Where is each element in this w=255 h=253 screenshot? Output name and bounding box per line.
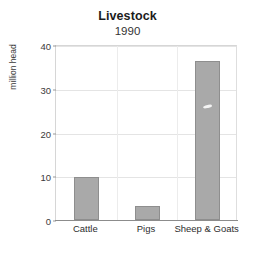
y-tick-label: 0 <box>46 216 51 227</box>
x-tick-label: Cattle <box>73 223 98 234</box>
y-tick-mark <box>53 46 56 47</box>
bar-sheep-goats <box>195 61 220 220</box>
bar-cattle <box>74 177 99 220</box>
x-tick-label: Sheep & Goats <box>174 223 238 234</box>
x-gridline <box>117 46 118 220</box>
y-tick-label: 30 <box>40 84 51 95</box>
y-tick-mark <box>53 177 56 178</box>
y-tick-label: 40 <box>40 41 51 52</box>
livestock-bar-chart: Livestock 1990 million head 010203040 Ca… <box>0 0 255 253</box>
scan-artifact <box>203 104 212 109</box>
x-axis-line <box>55 220 238 221</box>
bar-pigs <box>135 206 160 220</box>
y-axis-label: million head <box>8 37 18 97</box>
chart-subtitle: 1990 <box>0 25 255 37</box>
chart-title: Livestock <box>0 9 255 23</box>
y-tick-mark <box>53 89 56 90</box>
y-tick-mark <box>53 133 56 134</box>
x-gridline <box>177 46 178 220</box>
plot-area: 010203040 <box>55 45 237 220</box>
y-gridline <box>56 46 236 47</box>
y-tick-label: 10 <box>40 172 51 183</box>
y-tick-label: 20 <box>40 128 51 139</box>
x-tick-label: Pigs <box>137 223 155 234</box>
